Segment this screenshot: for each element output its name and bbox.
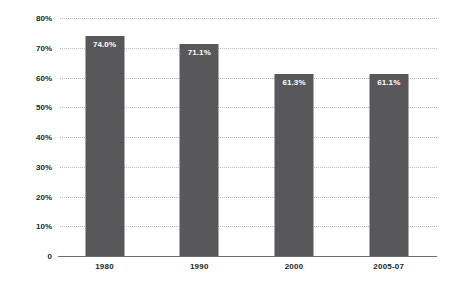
y-axis-tick-label: 80% xyxy=(0,14,52,23)
y-axis-tick-label: 50% xyxy=(0,103,52,112)
x-axis-category-label: 1980 xyxy=(58,262,151,271)
x-axis-category-label: 2005-07 xyxy=(342,262,435,271)
y-axis-tick-label: 0 xyxy=(6,252,52,261)
bar-slot: 71.1% xyxy=(153,10,246,256)
bar-slot: 74.0% xyxy=(58,10,151,256)
x-axis-category-label: 2000 xyxy=(248,262,341,271)
bar-value-label: 61.3% xyxy=(275,78,314,87)
bar-value-label: 61.1% xyxy=(369,78,408,87)
x-axis-category-label: 1990 xyxy=(153,262,246,271)
y-axis-tick-label: 20% xyxy=(0,192,52,201)
bar-value-label: 74.0% xyxy=(85,40,124,49)
y-axis-tick-label: 70% xyxy=(0,43,52,52)
y-axis-tick-label: 30% xyxy=(0,162,52,171)
bar-chart: 80% 70% 60% 50% 40% 30% 20% 10% 0 74.0% … xyxy=(0,0,449,297)
y-axis-tick-label: 40% xyxy=(0,133,52,142)
x-axis-line xyxy=(58,256,437,257)
y-axis-tick-label: 60% xyxy=(0,73,52,82)
y-axis-tick-label: 10% xyxy=(0,222,52,231)
bar-slot: 61.1% xyxy=(342,10,435,256)
bar-1980[interactable]: 74.0% xyxy=(85,36,124,256)
y-axis-tick-labels: 80% 70% 60% 50% 40% 30% 20% 10% 0 xyxy=(0,0,52,297)
bar-2005-07[interactable]: 61.1% xyxy=(369,74,408,256)
bar-slot: 61.3% xyxy=(248,10,341,256)
bar-2000[interactable]: 61.3% xyxy=(275,74,314,256)
plot-area: 74.0% 71.1% 61.3% 61.1% xyxy=(58,10,437,256)
bar-1990[interactable]: 71.1% xyxy=(180,44,219,256)
bar-value-label: 71.1% xyxy=(180,48,219,57)
y-axis-line xyxy=(58,14,59,256)
